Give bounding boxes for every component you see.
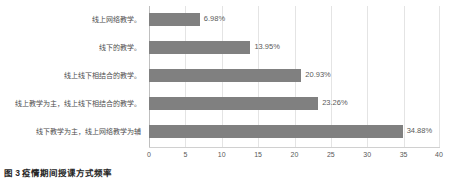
- category-label-5: 线下教学为主，线上网络教学为辅: [36, 118, 141, 146]
- category-label-1: 线上网络教学。: [92, 6, 141, 34]
- bar-1[interactable]: [149, 13, 200, 26]
- bar-row: 6.98%: [149, 6, 440, 34]
- xtick-0: 0: [147, 149, 151, 160]
- category-label-4: 线上教学为主，线上线下相结合的教学。: [15, 90, 141, 118]
- xtick-40: 40: [435, 149, 443, 160]
- bar-value-5: 34.88%: [407, 124, 432, 138]
- xtick-25: 25: [327, 149, 335, 160]
- bar-row: 34.88%: [149, 118, 440, 146]
- bar-4[interactable]: [149, 97, 318, 110]
- xtick-20: 20: [291, 149, 299, 160]
- bar-2[interactable]: [149, 41, 250, 54]
- xtick-10: 10: [218, 149, 226, 160]
- bar-row: 23.26%: [149, 90, 440, 118]
- bar-chart: 线上网络教学。 线下的教学。 线上线下相结合的教学。 线上教学为主，线上线下相结…: [0, 0, 449, 162]
- bar-value-2: 13.95%: [254, 40, 279, 54]
- bar-5[interactable]: [149, 125, 403, 138]
- xtick-30: 30: [363, 149, 371, 160]
- bar-3[interactable]: [149, 69, 301, 82]
- category-label-3: 线上线下相结合的教学。: [64, 62, 141, 90]
- bar-value-1: 6.98%: [204, 12, 225, 26]
- bar-row: 20.93%: [149, 62, 440, 90]
- value-axis-ticks: 0 5 10 15 20 25 30 35 40: [149, 149, 440, 161]
- xtick-5: 5: [183, 149, 187, 160]
- category-axis: 线上网络教学。 线下的教学。 线上线下相结合的教学。 线上教学为主，线上线下相结…: [0, 6, 145, 148]
- category-label-2: 线下的教学。: [99, 34, 141, 62]
- figure-caption: 图 3 疫情期间授课方式频率: [4, 166, 112, 178]
- category-axis-line: [149, 147, 440, 148]
- xtick-35: 35: [400, 149, 408, 160]
- bar-value-4: 23.26%: [322, 96, 347, 110]
- bar-row: 13.95%: [149, 34, 440, 62]
- figure-container: 线上网络教学。 线下的教学。 线上线下相结合的教学。 线上教学为主，线上线下相结…: [0, 0, 449, 180]
- plot-area: 6.98% 13.95% 20.93% 23.26% 34.88%: [149, 6, 440, 148]
- bar-value-3: 20.93%: [305, 68, 330, 82]
- xtick-15: 15: [254, 149, 262, 160]
